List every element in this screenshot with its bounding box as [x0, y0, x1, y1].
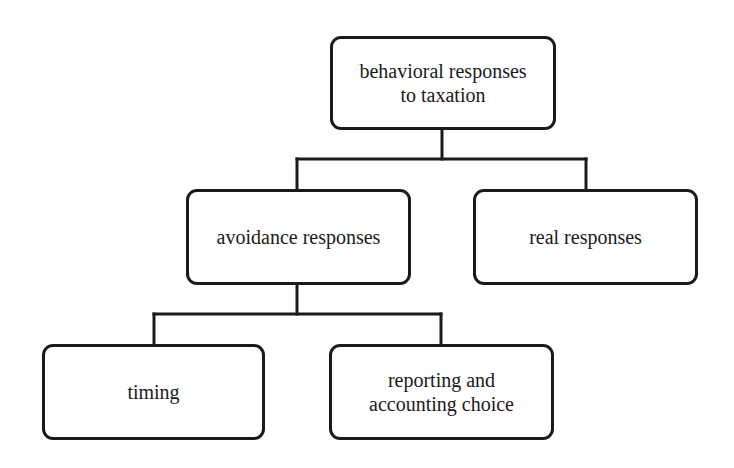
tree-diagram: behavioral responses to taxation avoidan…: [0, 0, 734, 468]
node-avoidance-responses: avoidance responses: [186, 189, 411, 285]
node-behavioral-responses: behavioral responses to taxation: [330, 36, 556, 130]
node-reporting-accounting-choice: reporting and accounting choice: [329, 344, 554, 440]
node-timing: timing: [42, 344, 265, 440]
node-label: reporting and accounting choice: [369, 368, 514, 416]
node-label: behavioral responses to taxation: [359, 59, 526, 107]
node-label: timing: [127, 380, 179, 404]
node-label: real responses: [529, 225, 642, 249]
node-label: avoidance responses: [217, 225, 381, 249]
node-real-responses: real responses: [473, 189, 698, 285]
